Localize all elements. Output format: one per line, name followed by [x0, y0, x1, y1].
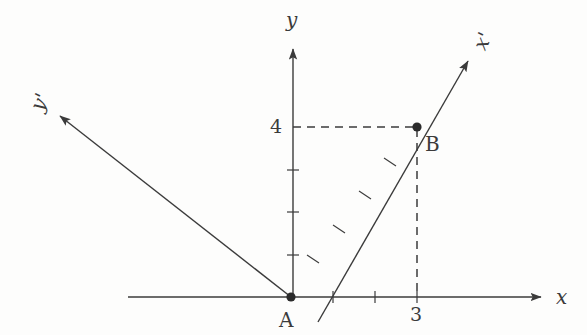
x-prime-tick-3: [359, 191, 371, 199]
x-prime-tick-2: [333, 225, 345, 233]
point-a-dot: [286, 292, 295, 301]
diagram-svg: [0, 0, 587, 335]
x-prime-tick-1: [307, 255, 319, 263]
point-a-label: A: [279, 310, 293, 330]
y-axis-label: y: [286, 10, 297, 30]
y-tick-label-4: 4: [270, 117, 282, 136]
point-b-dot: [412, 122, 421, 131]
point-b-label: B: [425, 134, 440, 154]
x-prime-axis-line: [318, 61, 468, 322]
figure-canvas: x y x' y' 4 3 A B: [0, 0, 587, 335]
x-axis-label: x: [556, 287, 567, 307]
y-prime-axis-line: [60, 116, 291, 297]
x-tick-label-3: 3: [410, 305, 422, 324]
x-prime-tick-4: [384, 158, 396, 166]
